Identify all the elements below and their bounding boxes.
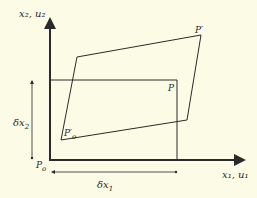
- arrowhead-icon: [30, 80, 34, 84]
- dot-icon: [175, 171, 177, 173]
- x-axis-arrow-icon: [234, 154, 246, 166]
- x-axis: [49, 154, 246, 166]
- y-axis-arrow-icon: [44, 17, 56, 29]
- delta-x2-dimension: [30, 80, 34, 159]
- delta-x2-label: δx2: [13, 117, 30, 131]
- undeformed-rectangle: [50, 80, 177, 160]
- delta-x1-label: δx1: [97, 179, 113, 193]
- p-o-label: Po: [35, 160, 46, 173]
- arrowhead-icon: [51, 170, 55, 174]
- p-label: P: [167, 83, 175, 93]
- delta-x1-dimension: [51, 170, 177, 174]
- y-axis: [44, 17, 56, 161]
- x-axis-label: x₁, u₁: [222, 169, 248, 180]
- dot-icon: [31, 157, 33, 159]
- deformed-parallelogram: [61, 35, 201, 140]
- y-axis-label: x₂, u₂: [19, 8, 45, 19]
- deformation-diagram: x₂, u₂ x₁, u₁ P′ P P′o Po δx2 δx1: [0, 0, 257, 198]
- p-prime-label: P′: [194, 25, 203, 35]
